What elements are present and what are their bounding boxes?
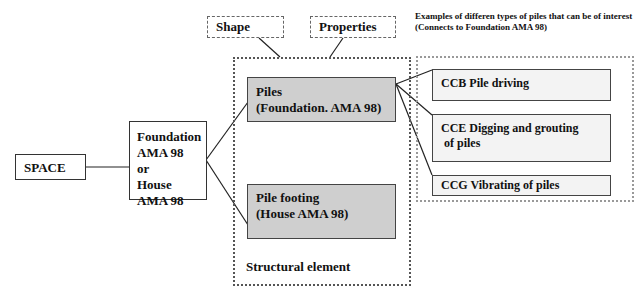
pile-type-cce: CCE Digging and grouting of piles bbox=[432, 114, 611, 162]
structural-element-label: Structural element bbox=[246, 259, 350, 275]
pile-footing-subtitle: (House AMA 98) bbox=[256, 206, 387, 222]
foundation-node: Foundation AMA 98 or House AMA 98 bbox=[129, 121, 207, 200]
piles-title: Piles bbox=[256, 84, 387, 100]
pile-type-ccb: CCB Pile driving bbox=[432, 69, 611, 101]
shape-label: Shape bbox=[216, 19, 250, 34]
foundation-line-3: House bbox=[137, 177, 199, 193]
pile-footing-node: Pile footing (House AMA 98) bbox=[247, 184, 396, 239]
piles-subtitle: (Foundation. AMA 98) bbox=[256, 100, 387, 116]
pile-footing-title: Pile footing bbox=[256, 190, 387, 206]
shape-box: Shape bbox=[207, 16, 284, 38]
foundation-line-4: AMA 98 bbox=[137, 193, 199, 209]
examples-note: Examples of differen types of piles that… bbox=[415, 11, 635, 33]
pile-type-ccg-label: CCG Vibrating of piles bbox=[441, 178, 559, 192]
piles-node: Piles (Foundation. AMA 98) bbox=[247, 77, 396, 122]
pile-type-cce-label: CCE Digging and grouting bbox=[441, 121, 602, 136]
foundation-line-1: Foundation bbox=[137, 129, 199, 145]
pile-type-cce-label-2: of piles bbox=[441, 136, 602, 151]
foundation-line-2: AMA 98 or bbox=[137, 145, 199, 177]
space-node: SPACE bbox=[15, 154, 86, 180]
examples-note-line-1: Examples of differen types of piles that… bbox=[415, 11, 635, 22]
space-label: SPACE bbox=[24, 160, 66, 175]
examples-note-line-2: (Connects to Foundation AMA 98) bbox=[415, 22, 635, 33]
properties-box: Properties bbox=[310, 16, 396, 38]
pile-type-ccg: CCG Vibrating of piles bbox=[432, 175, 611, 196]
pile-type-ccb-label: CCB Pile driving bbox=[441, 76, 529, 90]
properties-label: Properties bbox=[319, 19, 377, 34]
